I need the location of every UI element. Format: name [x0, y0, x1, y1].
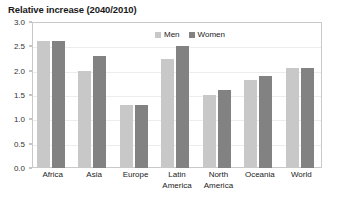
bar-women-africa [52, 41, 65, 168]
bar-men-world [286, 68, 299, 168]
bar-men-oceania [244, 80, 257, 168]
bar-women-world [301, 68, 314, 168]
x-tick-label-line: Asia [86, 170, 102, 179]
bar-group [32, 22, 73, 168]
bar-women-north-america [218, 90, 231, 168]
bar-men-north-america [203, 95, 216, 168]
bar-men-europe [120, 105, 133, 168]
x-tick-label-line: America [192, 181, 244, 192]
bar-group [156, 22, 197, 168]
chart-figure: Relative increase (2040/2010) 3.02.52.01… [0, 0, 343, 210]
x-tick-label-line: North [209, 170, 229, 179]
bar-women-latin-america [176, 46, 189, 168]
legend-label: Women [198, 30, 225, 39]
bar-women-oceania [259, 76, 272, 168]
x-tick-label-line: Oceania [245, 170, 275, 179]
legend-item-women[interactable]: Women [189, 30, 225, 39]
bar-group [198, 22, 239, 168]
legend-swatch-icon [189, 32, 195, 38]
bar-women-asia [93, 56, 106, 168]
x-tick-label-line: Europe [123, 170, 149, 179]
y-tick-label: 0.0 [14, 164, 25, 173]
bar-group [73, 22, 114, 168]
y-tick-label: 0.5 [14, 139, 25, 148]
bar-group [115, 22, 156, 168]
y-tick-label: 2.5 [14, 42, 25, 51]
x-tick-label-line: Africa [42, 170, 62, 179]
y-tick-label: 3.0 [14, 18, 25, 27]
x-tick-label-line: Latin [168, 170, 185, 179]
y-axis: 3.02.52.01.51.00.50.0 [0, 22, 32, 168]
bar-men-asia [78, 71, 91, 168]
bar-women-europe [135, 105, 148, 168]
bar-group [239, 22, 280, 168]
y-tick-label: 1.5 [14, 91, 25, 100]
chart-legend: MenWomen [155, 30, 225, 39]
x-tick-label-line: World [291, 170, 312, 179]
y-tick-label: 2.0 [14, 66, 25, 75]
legend-item-men[interactable]: Men [155, 30, 180, 39]
x-tick-label-world: World [275, 170, 327, 181]
bar-men-latin-america [161, 59, 174, 169]
bar-men-africa [37, 41, 50, 168]
bars-layer [32, 22, 322, 168]
legend-label: Men [164, 30, 180, 39]
x-axis: AfricaAsiaEuropeLatinAmericaNorthAmerica… [32, 170, 322, 208]
chart-title: Relative increase (2040/2010) [8, 4, 137, 15]
y-tick-label: 1.0 [14, 115, 25, 124]
bar-group [281, 22, 322, 168]
legend-swatch-icon [155, 32, 161, 38]
